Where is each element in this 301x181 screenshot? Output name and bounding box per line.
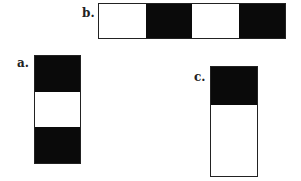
figure-b-segment-1 [99, 4, 146, 38]
figure-a-label: a. [17, 57, 29, 69]
figure-a-segment-2 [35, 92, 80, 128]
figure-c-segment-2 [211, 105, 257, 176]
figure-a-segment-1 [35, 56, 80, 92]
figure-c-bar [210, 66, 258, 177]
figure-b-bar [98, 3, 286, 39]
figure-b-label: b. [82, 7, 95, 19]
figure-a-segment-3 [35, 127, 80, 163]
figure-c-label: c. [194, 71, 205, 83]
figure-c-segment-1 [211, 67, 257, 105]
figure-a-bar [34, 55, 81, 164]
figure-b-segment-3 [192, 4, 239, 38]
figure-b-segment-4 [239, 4, 286, 38]
figure-b-segment-2 [146, 4, 193, 38]
